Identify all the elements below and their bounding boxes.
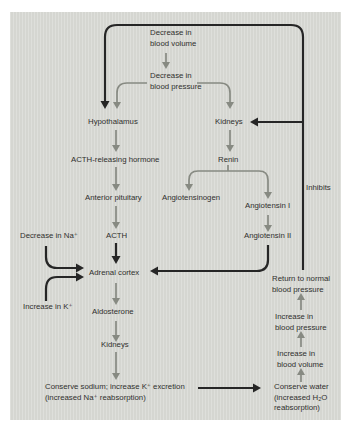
edge-increasek-adrenalcortex [46, 277, 77, 301]
node-decrease-blood-volume: Decrease in blood volume [150, 28, 196, 49]
edge-bloodpressure-hypothalamus [117, 83, 147, 103]
edge-bloodpressure-kidneys [197, 83, 230, 103]
node-conserve-water: Conserve water (increased H₂O reabsorpti… [274, 382, 329, 414]
node-decrease-na: Decrease in Na⁺ [20, 231, 78, 242]
node-increase-k: Increase in K⁺ [23, 302, 73, 313]
label-inhibits: Inhibits [306, 183, 331, 194]
node-conserve-sodium: Conserve sodium; increase K⁺ excretion (… [45, 382, 185, 403]
node-angiotensin-ii: Angiotensin II [244, 231, 291, 242]
node-adrenal-cortex: Adrenal cortex [89, 268, 139, 279]
node-increase-blood-pressure: Increase in blood pressure [275, 312, 327, 333]
edge-renin-angiotensin1 [228, 171, 268, 193]
node-angiotensin-i: Angiotensin I [245, 201, 290, 212]
node-renin: Renin [218, 155, 238, 166]
node-hypothalamus: Hypothalamus [88, 117, 138, 128]
edge-renin-angiotensinogen [189, 171, 228, 185]
edge-decreasena-adrenalcortex [46, 246, 77, 268]
node-kidneys-lower: Kidneys [101, 340, 129, 351]
node-kidneys-upper: Kidneys [215, 117, 243, 128]
node-anterior-pituitary: Anterior pituitary [85, 193, 142, 204]
node-aldosterone: Aldosterone [92, 307, 134, 318]
node-acth-releasing-hormone: ACTH-releasing hormone [71, 155, 159, 166]
node-angiotensinogen: Angiotensinogen [162, 193, 220, 204]
node-return-to-normal: Return to normal blood pressure [272, 274, 330, 295]
edge-angiotensin2-adrenalcortex [157, 245, 268, 271]
node-decrease-blood-pressure: Decrease in blood pressure [150, 71, 202, 92]
node-acth: ACTH [106, 231, 127, 242]
node-increase-blood-volume: Increase in blood volume [277, 349, 323, 370]
